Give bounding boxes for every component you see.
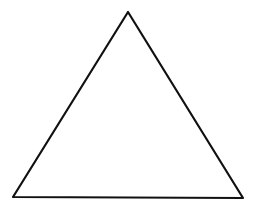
diagram-canvas [0, 0, 255, 209]
triangle-shape [13, 12, 243, 198]
triangle-diagram [0, 0, 255, 209]
